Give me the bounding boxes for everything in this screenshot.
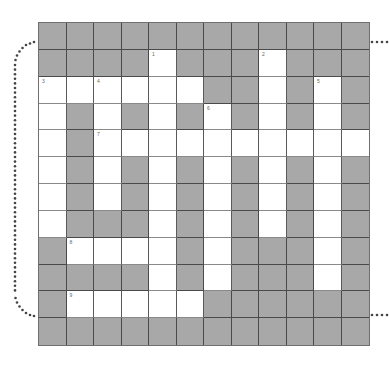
crossword-block	[259, 23, 287, 50]
crossword-cell[interactable]	[67, 77, 95, 104]
crossword-cell[interactable]: 2	[259, 50, 287, 77]
crossword-block	[177, 50, 205, 77]
crossword-cell[interactable]	[177, 130, 205, 157]
crossword-cell[interactable]	[39, 184, 67, 211]
crossword-block	[342, 157, 370, 184]
crossword-cell[interactable]	[259, 157, 287, 184]
crossword-block	[259, 318, 287, 345]
clue-number: 9	[70, 293, 73, 298]
crossword-cell[interactable]: 6	[204, 104, 232, 131]
crossword-cell[interactable]	[122, 291, 150, 318]
crossword-cell[interactable]	[149, 130, 177, 157]
crossword-cell[interactable]	[314, 211, 342, 238]
crossword-block	[314, 50, 342, 77]
crossword-cell[interactable]	[149, 184, 177, 211]
crossword-block	[342, 291, 370, 318]
crossword-block	[314, 23, 342, 50]
crossword-block	[177, 265, 205, 292]
crossword-cell[interactable]	[259, 130, 287, 157]
crossword-block	[287, 238, 315, 265]
crossword-cell[interactable]: 7	[94, 130, 122, 157]
crossword-cell[interactable]	[94, 104, 122, 131]
crossword-block	[67, 211, 95, 238]
crossword-cell[interactable]	[259, 211, 287, 238]
crossword-cell[interactable]	[314, 130, 342, 157]
clue-number: 4	[97, 79, 100, 84]
crossword-block	[287, 211, 315, 238]
crossword-block	[232, 23, 260, 50]
crossword-block	[177, 104, 205, 131]
crossword-block	[232, 211, 260, 238]
crossword-cell[interactable]: 8	[67, 238, 95, 265]
crossword-block	[149, 318, 177, 345]
crossword-block	[342, 23, 370, 50]
crossword-cell[interactable]	[39, 104, 67, 131]
crossword-cell[interactable]	[259, 104, 287, 131]
crossword-cell[interactable]: 9	[67, 291, 95, 318]
crossword-block	[39, 318, 67, 345]
crossword-cell[interactable]	[204, 211, 232, 238]
crossword-block	[287, 184, 315, 211]
crossword-cell[interactable]	[149, 77, 177, 104]
crossword-cell[interactable]	[177, 77, 205, 104]
crossword-block	[67, 184, 95, 211]
crossword-block	[287, 104, 315, 131]
crossword-cell[interactable]	[259, 77, 287, 104]
crossword-block	[342, 50, 370, 77]
crossword-block	[67, 104, 95, 131]
clue-number: 7	[97, 132, 100, 137]
crossword-cell[interactable]: 3	[39, 77, 67, 104]
crossword-block	[342, 211, 370, 238]
crossword-block	[94, 50, 122, 77]
crossword-cell[interactable]: 1	[149, 50, 177, 77]
crossword-cell[interactable]	[149, 211, 177, 238]
crossword-cell[interactable]	[122, 130, 150, 157]
crossword-cell[interactable]	[94, 291, 122, 318]
crossword-block	[232, 238, 260, 265]
crossword-cell[interactable]	[314, 184, 342, 211]
crossword-block	[67, 23, 95, 50]
crossword-cell[interactable]	[122, 77, 150, 104]
crossword-cell[interactable]	[204, 130, 232, 157]
crossword-block	[177, 238, 205, 265]
crossword-cell[interactable]	[314, 238, 342, 265]
crossword-cell[interactable]	[39, 157, 67, 184]
crossword-cell[interactable]	[314, 265, 342, 292]
crossword-cell[interactable]	[149, 265, 177, 292]
crossword-cell[interactable]	[39, 211, 67, 238]
crossword-cell[interactable]	[204, 238, 232, 265]
crossword-cell[interactable]	[177, 291, 205, 318]
crossword-block	[39, 265, 67, 292]
crossword-cell[interactable]: 5	[314, 77, 342, 104]
crossword-cell[interactable]: 4	[94, 77, 122, 104]
clue-number: 1	[152, 52, 155, 57]
crossword-cell[interactable]	[94, 157, 122, 184]
crossword-block	[177, 318, 205, 345]
crossword-block	[177, 23, 205, 50]
crossword-cell[interactable]	[94, 184, 122, 211]
crossword-block	[259, 265, 287, 292]
crossword-cell[interactable]	[287, 130, 315, 157]
crossword-cell[interactable]	[94, 238, 122, 265]
crossword-cell[interactable]	[314, 157, 342, 184]
crossword-cell[interactable]	[39, 130, 67, 157]
crossword-cell[interactable]	[122, 238, 150, 265]
crossword-cell[interactable]	[149, 157, 177, 184]
crossword-block	[232, 291, 260, 318]
crossword-cell[interactable]	[204, 184, 232, 211]
crossword-block	[204, 50, 232, 77]
crossword-cell[interactable]	[259, 184, 287, 211]
crossword-cell[interactable]	[342, 130, 370, 157]
clue-number: 6	[207, 106, 210, 111]
crossword-cell[interactable]	[204, 265, 232, 292]
crossword-block	[232, 77, 260, 104]
crossword-cell[interactable]	[149, 291, 177, 318]
crossword-cell[interactable]	[149, 104, 177, 131]
crossword-cell[interactable]	[314, 104, 342, 131]
crossword-block	[287, 291, 315, 318]
crossword-cell[interactable]	[204, 157, 232, 184]
crossword-cell[interactable]	[149, 238, 177, 265]
crossword-block	[94, 318, 122, 345]
crossword-block	[342, 104, 370, 131]
crossword-cell[interactable]	[232, 130, 260, 157]
